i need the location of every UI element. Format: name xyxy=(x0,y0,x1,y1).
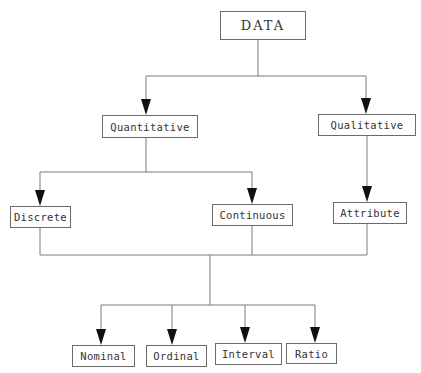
connector-lines xyxy=(0,0,421,373)
arrow-down-icon xyxy=(141,99,151,115)
node-qualitative: Qualitative xyxy=(318,114,416,136)
arrow-down-icon xyxy=(96,329,106,345)
node-nominal: Nominal xyxy=(72,345,135,367)
node-ordinal: Ordinal xyxy=(146,345,207,367)
arrow-down-icon xyxy=(35,190,45,206)
node-data: DATA xyxy=(220,11,306,40)
arrow-down-icon xyxy=(240,327,250,343)
node-attribute: Attribute xyxy=(333,202,407,224)
node-discrete: Discrete xyxy=(10,206,71,228)
arrow-down-icon xyxy=(361,98,371,114)
node-continuous: Continuous xyxy=(212,204,293,226)
arrow-down-icon xyxy=(310,327,320,343)
arrow-down-icon xyxy=(167,329,177,345)
arrow-down-icon xyxy=(247,188,257,204)
node-interval: Interval xyxy=(215,343,282,365)
node-ratio: Ratio xyxy=(286,343,337,364)
data-types-diagram: DATA Quantitative Qualitative Discrete C… xyxy=(0,0,421,373)
node-quantitative: Quantitative xyxy=(102,115,198,138)
arrow-down-icon xyxy=(362,186,372,202)
